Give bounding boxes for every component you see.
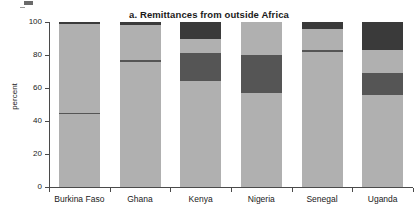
bar-segment [302, 22, 343, 29]
y-tick-label: 40 [16, 117, 42, 125]
bar-segment [120, 62, 161, 187]
bar-segment [180, 39, 221, 54]
bar-segment [241, 93, 282, 187]
y-tick-label: 80 [16, 51, 42, 59]
x-axis-label-senegal: Senegal [287, 194, 357, 204]
bar-segment [362, 73, 403, 94]
bar-segment [120, 25, 161, 60]
x-tick-mark [352, 188, 353, 192]
x-axis-label-ghana: Ghana [105, 194, 175, 204]
bar-kenya[interactable] [180, 22, 221, 187]
y-tick-mark [45, 88, 50, 89]
bar-segment [180, 81, 221, 187]
y-tick-mark [45, 154, 50, 155]
bar-nigeria[interactable] [241, 22, 282, 187]
bar-segment [362, 22, 403, 50]
y-tick-mark [45, 121, 50, 122]
y-tick-mark [45, 22, 50, 23]
y-tick-label: 60 [16, 84, 42, 92]
bar-segment [362, 95, 403, 187]
bar-senegal[interactable] [302, 22, 343, 187]
x-axis-label-burkina-faso: Burkina Faso [44, 194, 114, 204]
bar-ghana[interactable] [120, 22, 161, 187]
x-axis-label-uganda: Uganda [348, 194, 418, 204]
x-tick-mark [49, 188, 50, 192]
x-axis-label-kenya: Kenya [166, 194, 236, 204]
y-tick-label: 20 [16, 150, 42, 158]
bar-uganda[interactable] [362, 22, 403, 187]
x-tick-mark [110, 188, 111, 192]
y-axis-line [49, 22, 50, 188]
chart-plot-area: percent 020406080100 Burkina FasoGhanaKe… [0, 0, 418, 217]
bar-segment [241, 22, 282, 55]
bar-segment [180, 22, 221, 39]
bar-burkina-faso[interactable] [59, 22, 100, 187]
y-tick-mark [45, 55, 50, 56]
bar-segment [59, 24, 100, 113]
x-tick-mark [170, 188, 171, 192]
x-axis-label-nigeria: Nigeria [226, 194, 296, 204]
bar-segment [302, 52, 343, 187]
bar-segment [302, 29, 343, 50]
y-tick-label: 100 [16, 18, 42, 26]
x-tick-mark [292, 188, 293, 192]
bar-segment [362, 50, 403, 73]
x-tick-mark [413, 188, 414, 192]
bar-segment [180, 53, 221, 81]
x-tick-mark [231, 188, 232, 192]
y-tick-label: 0 [16, 183, 42, 191]
bar-segment [241, 55, 282, 93]
bar-segment [59, 114, 100, 187]
